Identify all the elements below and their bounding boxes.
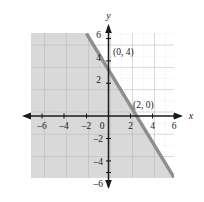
x-tick-label: 0 (100, 121, 105, 131)
y-intercept-label: (0, 4) (113, 47, 134, 58)
x-tick-label: 4 (150, 121, 155, 131)
graph-figure: –6 –4 –2 0 2 4 6 6 4 2 –2 –4 –6 x y (0, … (0, 0, 204, 202)
y-tick-label: 4 (96, 53, 101, 63)
x-tick-label: –2 (81, 121, 92, 131)
x-tick-label: –6 (36, 121, 47, 131)
x-tick-label: 2 (128, 121, 133, 131)
y-tick-label: 2 (96, 75, 101, 85)
y-tick-label: –4 (93, 157, 104, 167)
y-tick-label: –6 (93, 179, 104, 189)
x-tick-label: –4 (58, 121, 69, 131)
x-axis-label: x (188, 110, 194, 121)
y-axis-label: y (105, 10, 111, 21)
y-tick-label: 6 (96, 30, 101, 40)
x-tick-label: 6 (172, 121, 177, 131)
y-tick-label: –2 (93, 134, 104, 144)
x-intercept-label: (2, 0) (133, 100, 154, 111)
coordinate-plane: –6 –4 –2 0 2 4 6 6 4 2 –2 –4 –6 x y (0, … (0, 0, 204, 202)
